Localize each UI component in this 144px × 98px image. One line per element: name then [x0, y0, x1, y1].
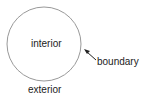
boundary-label: boundary: [97, 57, 139, 67]
interior-label: interior: [31, 39, 62, 49]
boundary-arrow-line: [87, 52, 96, 60]
diagram-canvas: [0, 0, 144, 98]
exterior-label: exterior: [28, 85, 61, 95]
